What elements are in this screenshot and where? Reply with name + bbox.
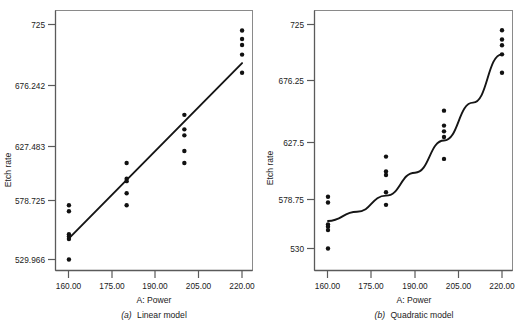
data-point	[240, 28, 244, 32]
x-tick-label-190: 190.00	[402, 281, 428, 291]
data-point	[240, 37, 244, 41]
data-point	[442, 129, 446, 133]
data-point	[182, 161, 186, 165]
x-tick-label-220: 220.00	[489, 281, 515, 291]
data-point	[384, 203, 388, 207]
data-point	[182, 113, 186, 117]
y-tick-label-676: 676.25	[279, 76, 305, 86]
x-tick-label-160: 160.00	[315, 281, 341, 291]
data-point-layer	[67, 28, 245, 261]
data-point	[500, 37, 504, 41]
y-axis-title: Etch rate	[3, 153, 13, 188]
x-tick-label-205: 205.00	[186, 281, 212, 291]
data-point	[442, 123, 446, 127]
y-tick-label-676: 676.242	[15, 81, 45, 91]
data-point	[67, 257, 71, 261]
x-tick-marks	[328, 271, 503, 279]
data-point	[442, 135, 446, 139]
figure-container: 725 676.242 627.483 578.725 529.966 Etch…	[0, 0, 523, 323]
y-tick-label-530: 530	[290, 244, 304, 254]
y-tick-label-725: 725	[290, 20, 304, 30]
fit-curve-layer	[69, 63, 242, 238]
panel-linear-model: 725 676.242 627.483 578.725 529.966 Etch…	[0, 0, 261, 323]
panel-caption-label: (a)	[121, 310, 132, 320]
x-axis-title: A: Power	[137, 295, 172, 305]
fit-curve-layer	[328, 54, 502, 221]
y-tick-label-627: 627.483	[15, 142, 45, 152]
x-tick-label-160: 160.00	[56, 281, 82, 291]
data-point	[326, 200, 330, 204]
data-point	[124, 161, 128, 165]
y-tick-label-578: 578.725	[15, 196, 45, 206]
data-point	[67, 209, 71, 213]
data-point	[326, 228, 330, 232]
x-axis-title: A: Power	[397, 295, 432, 305]
data-point	[384, 173, 388, 177]
y-tick-marks	[48, 25, 56, 260]
data-point	[500, 71, 504, 75]
data-point	[182, 149, 186, 153]
data-point	[124, 191, 128, 195]
y-tick-label-578: 578.75	[279, 195, 305, 205]
data-point	[240, 43, 244, 47]
data-point	[326, 195, 330, 199]
y-axis-title: Etch rate	[265, 151, 275, 186]
data-point	[182, 127, 186, 131]
x-tick-label-220: 220.00	[229, 281, 255, 291]
quadratic-model-plot: 725 676.25 627.5 578.75 530 Etch rate 16…	[262, 0, 523, 323]
data-point	[240, 52, 244, 56]
x-tick-marks	[69, 271, 243, 279]
data-point	[240, 71, 244, 75]
data-point	[442, 157, 446, 161]
plot-frame	[56, 11, 253, 271]
data-point	[500, 43, 504, 47]
data-point	[67, 237, 71, 241]
panel-caption-text: Quadratic model	[390, 310, 453, 320]
panel-caption-label: (b)	[375, 310, 386, 320]
y-tick-label-529: 529.966	[15, 255, 45, 265]
fit-curve	[69, 63, 242, 238]
data-point	[442, 108, 446, 112]
panel-caption: (a) Linear model	[121, 310, 187, 320]
panel-quadratic-model: 725 676.25 627.5 578.75 530 Etch rate 16…	[262, 0, 523, 323]
data-point	[124, 203, 128, 207]
plot-frame	[315, 11, 513, 271]
data-point	[326, 246, 330, 250]
data-point	[182, 133, 186, 137]
data-point	[500, 28, 504, 32]
x-tick-label-205: 205.00	[446, 281, 472, 291]
data-point	[384, 154, 388, 158]
y-tick-marks	[307, 25, 315, 249]
linear-model-plot: 725 676.242 627.483 578.725 529.966 Etch…	[0, 0, 261, 323]
x-tick-label-175: 175.00	[358, 281, 384, 291]
fit-curve	[328, 54, 502, 221]
data-point	[124, 179, 128, 183]
x-tick-label-175: 175.00	[99, 281, 125, 291]
y-tick-label-725: 725	[31, 20, 45, 30]
data-point	[500, 52, 504, 56]
data-point	[67, 203, 71, 207]
panel-caption: (b) Quadratic model	[375, 310, 454, 320]
y-tick-label-627: 627.5	[283, 138, 304, 148]
panel-caption-text: Linear model	[137, 310, 187, 320]
data-point-layer	[326, 28, 504, 251]
x-tick-label-190: 190.00	[142, 281, 168, 291]
data-point	[384, 190, 388, 194]
